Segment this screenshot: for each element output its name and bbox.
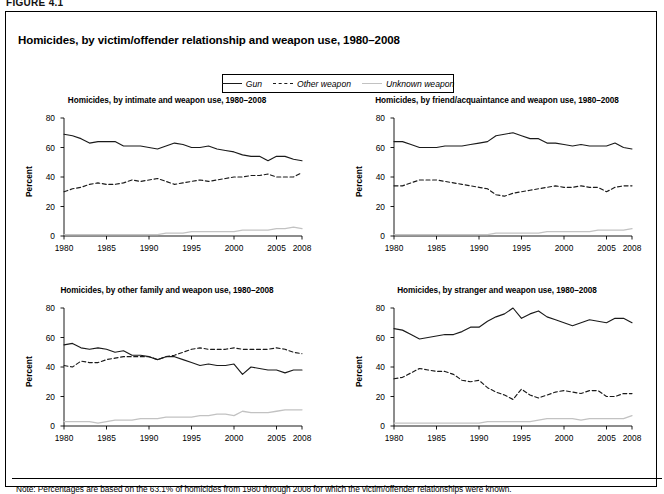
data-series-unknown-weapon xyxy=(64,410,302,423)
data-series-gun xyxy=(394,308,632,339)
legend-swatch-solid-icon xyxy=(222,80,242,87)
data-series-unknown-weapon xyxy=(394,416,632,423)
data-series-other-weapon xyxy=(64,348,302,367)
legend-label-other-weapon: Other weapon xyxy=(297,79,351,89)
figure-note: Note: Percentages are based on the 63.1%… xyxy=(16,484,512,494)
data-series-other-weapon xyxy=(394,368,632,399)
data-series-unknown-weapon xyxy=(394,229,632,235)
legend-swatch-dashed-icon xyxy=(273,80,293,87)
chart-panel-intimate: Homicides, by intimate and weapon use, 1… xyxy=(12,96,322,276)
note-divider xyxy=(12,478,662,479)
chart-panel-stranger: Homicides, by stranger and weapon use, 1… xyxy=(342,286,652,466)
data-series-gun xyxy=(64,343,302,374)
chart-panel-friend-acquaintance: Homicides, by friend/acquaintance and we… xyxy=(342,96,652,276)
figure-container: Homicides, by victim/offender relationsh… xyxy=(5,11,657,487)
plot-area xyxy=(342,286,652,466)
page-title: Homicides, by victim/offender relationsh… xyxy=(18,34,400,46)
figure-label: FIGURE 4.1 xyxy=(6,0,63,8)
chart-legend: Gun Other weapon Unknown weapon xyxy=(222,74,454,93)
data-series-other-weapon xyxy=(394,180,632,196)
plot-area xyxy=(12,96,322,276)
chart-panel-other-family: Homicides, by other family and weapon us… xyxy=(12,286,322,466)
legend-label-gun: Gun xyxy=(246,79,262,89)
legend-item-gun: Gun xyxy=(222,79,262,89)
legend-swatch-gray-icon xyxy=(362,80,382,87)
legend-item-unknown-weapon: Unknown weapon xyxy=(362,79,454,89)
plot-area xyxy=(12,286,322,466)
legend-label-unknown-weapon: Unknown weapon xyxy=(386,79,454,89)
plot-area xyxy=(342,96,652,276)
data-series-gun xyxy=(64,134,302,161)
data-series-other-weapon xyxy=(64,173,302,192)
data-series-unknown-weapon xyxy=(64,227,302,234)
data-series-gun xyxy=(394,133,632,149)
legend-item-other-weapon: Other weapon xyxy=(273,79,351,89)
